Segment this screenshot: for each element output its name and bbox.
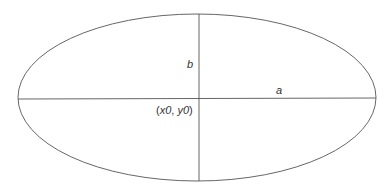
label-a: a <box>276 84 282 96</box>
ellipse-outline <box>18 14 376 181</box>
major-axis <box>18 98 376 99</box>
paren-close: ) <box>189 104 193 116</box>
label-center: (x0, y0) <box>156 104 193 116</box>
center-y: y0 <box>177 104 189 116</box>
label-b: b <box>187 58 193 70</box>
center-x: x0 <box>160 104 172 116</box>
ellipse-diagram <box>0 0 390 191</box>
